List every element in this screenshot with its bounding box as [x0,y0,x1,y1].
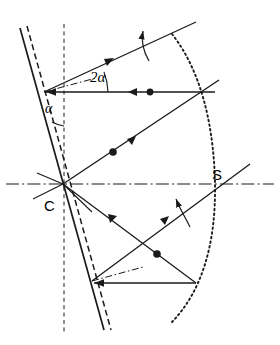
direction-arrow-reflected-upper [104,58,114,66]
reflected-ray-upper [44,22,196,92]
ray-middle [63,80,219,184]
dash-dot-normal-line-bottom [92,267,143,281]
fan-line-c-upper [37,173,63,184]
label-C: C [44,197,55,214]
ray-diagram-canvas: 2α α C S [0,0,280,345]
direction-arrow-lower-outgoing [160,216,169,225]
chord-C-to-lower-arc [63,184,196,283]
ray-diagram-figure: 2α α C S [0,0,280,345]
label-2alpha: 2α [90,69,107,85]
angle-arc-alpha [52,122,64,126]
ray-point-marker [109,148,117,156]
rotation-indicator-arrow-top [142,31,149,61]
ray-point-marker [153,250,161,258]
label-S: S [212,166,222,183]
label-alpha: α [45,101,53,116]
direction-arrow-middle [127,136,136,145]
dotted-circular-arc [172,34,215,322]
rotation-indicator-arrow-bottom [176,199,190,227]
